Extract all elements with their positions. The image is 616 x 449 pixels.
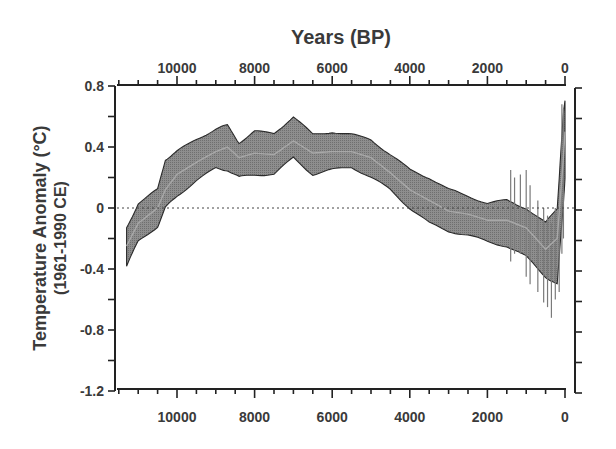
top-x-tick-label: 2000: [472, 60, 503, 76]
bottom-x-tick-label: 4000: [394, 409, 425, 425]
y-axis-title: Temperature Anomaly (°C) (1961-1990 CE): [30, 125, 69, 350]
uncertainty-band: [127, 101, 565, 284]
plot-area: [117, 101, 575, 318]
top-x-tick-label: 10000: [158, 60, 197, 76]
y-axis-title-sub: (1961-1990 CE): [52, 181, 69, 295]
top-x-tick-label: 0: [561, 60, 569, 76]
x-axis-title: Years (BP): [291, 26, 391, 48]
y-tick-label: 0.4: [85, 139, 105, 155]
bottom-x-tick-label: 0: [561, 409, 569, 425]
y-tick-label: -1.2: [80, 383, 104, 399]
bottom-x-tick-label: 2000: [472, 409, 503, 425]
top-x-tick-label: 8000: [239, 60, 270, 76]
bottom-x-tick-label: 8000: [239, 409, 270, 425]
bottom-x-tick-label: 10000: [158, 409, 197, 425]
bottom-x-tick-label: 6000: [317, 409, 348, 425]
y-tick-label: -0.8: [80, 322, 104, 338]
top-x-tick-label: 6000: [317, 60, 348, 76]
temperature-anomaly-chart: Years (BP) Temperature Anomaly (°C) (196…: [0, 0, 616, 449]
y-tick-label: -0.4: [80, 261, 104, 277]
top-x-tick-label: 4000: [394, 60, 425, 76]
y-tick-label: 0: [96, 200, 104, 216]
y-axis-title-main: Temperature Anomaly (°C): [30, 125, 50, 350]
y-tick-label: 0.8: [85, 78, 105, 94]
